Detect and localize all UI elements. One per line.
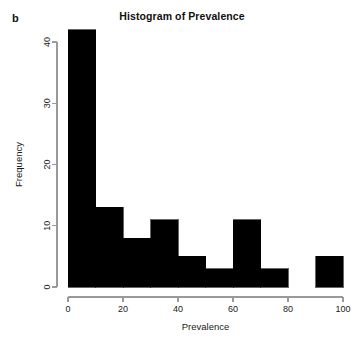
x-tick-label: 20 xyxy=(118,304,128,314)
y-tick-label: 0 xyxy=(42,284,52,289)
y-tick-label: 10 xyxy=(42,221,52,231)
histogram-figure: b Histogram of Prevalence 01020304002040… xyxy=(0,0,364,346)
histogram-bar xyxy=(206,269,234,287)
x-tick-label: 40 xyxy=(173,304,183,314)
y-tick-label: 30 xyxy=(42,98,52,108)
histogram-bar xyxy=(233,220,261,287)
y-tick-label: 20 xyxy=(42,159,52,169)
x-axis-title: Prevalence xyxy=(182,321,230,332)
histogram-bar xyxy=(123,238,151,287)
y-axis-title: Frequency xyxy=(13,142,24,187)
plot-area: 010203040020406080100 PrevalenceFrequenc… xyxy=(0,0,364,346)
histogram-bar xyxy=(261,269,289,287)
histogram-bar xyxy=(96,207,124,287)
histogram-bar xyxy=(151,220,179,287)
x-tick-label: 100 xyxy=(335,304,350,314)
x-tick-label: 0 xyxy=(65,304,70,314)
y-tick-label: 40 xyxy=(42,37,52,47)
histogram-bar xyxy=(178,256,206,287)
x-tick-label: 60 xyxy=(228,304,238,314)
bars-group xyxy=(68,30,343,287)
histogram-bar xyxy=(68,30,96,287)
histogram-bar xyxy=(316,256,344,287)
x-tick-label: 80 xyxy=(283,304,293,314)
